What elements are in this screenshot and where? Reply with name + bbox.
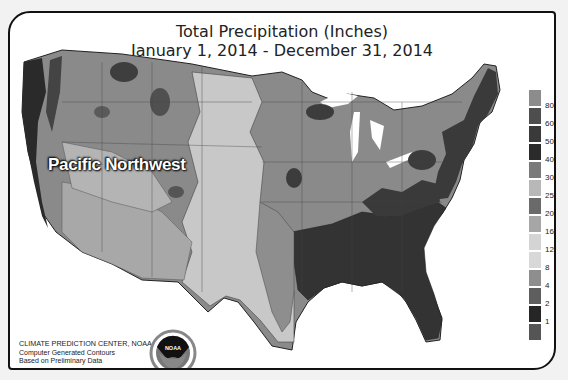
rockies-wet-1	[110, 62, 138, 82]
midwest-wet-1	[306, 104, 334, 120]
credit-agency: CLIMATE PREDICTION CENTER, NOAA	[19, 340, 152, 349]
legend-swatch	[529, 306, 541, 322]
legend-swatch	[529, 198, 541, 214]
legend-swatch	[529, 126, 541, 142]
legend-label: 20	[545, 209, 554, 218]
legend-label: 30	[545, 173, 554, 182]
rockies-wet-4	[168, 186, 184, 198]
legend-label: 60	[545, 119, 554, 128]
legend-swatch	[529, 144, 541, 160]
region-label-pacific-northwest: Pacific Northwest	[48, 155, 186, 175]
legend-label: 1	[545, 317, 549, 326]
legend-label: 2	[545, 299, 549, 308]
legend-swatch	[529, 288, 541, 304]
midwest-wet-3	[408, 150, 436, 170]
midwest-wet-2	[286, 168, 302, 188]
credit-block: CLIMATE PREDICTION CENTER, NOAA Computer…	[19, 340, 152, 366]
legend-label: 50	[545, 137, 554, 146]
legend-label: 12	[545, 245, 554, 254]
svg-text:NOAA: NOAA	[165, 345, 181, 351]
legend-swatch	[529, 270, 541, 286]
precipitation-map	[10, 13, 556, 370]
legend-label: 8	[545, 263, 549, 272]
legend-label: 16	[545, 227, 554, 236]
legend-label: 40	[545, 155, 554, 164]
legend-swatch	[529, 180, 541, 196]
legend-label: 4	[545, 281, 549, 290]
credit-data-note: Based on Preliminary Data	[19, 357, 152, 366]
legend-swatch	[529, 108, 541, 124]
noaa-logo-icon: NOAA	[149, 329, 197, 370]
legend-swatch	[529, 324, 541, 340]
map-frame: Total Precipitation (Inches) January 1, …	[8, 11, 556, 370]
legend-swatch	[529, 234, 541, 250]
legend-swatch	[529, 252, 541, 268]
legend-swatch	[529, 90, 541, 106]
legend-label: 25	[545, 191, 554, 200]
legend-swatch	[529, 162, 541, 178]
legend-swatch	[529, 216, 541, 232]
legend-label: 80	[545, 101, 554, 110]
credit-method: Computer Generated Contours	[19, 349, 152, 358]
